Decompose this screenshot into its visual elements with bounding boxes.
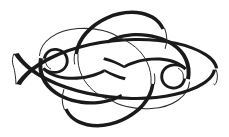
calligraphic-flourish-drawing: Interlaced double-ellipse flourish with … — [0, 0, 229, 137]
ornament-canvas: Interlaced double-ellipse flourish with … — [0, 0, 229, 137]
